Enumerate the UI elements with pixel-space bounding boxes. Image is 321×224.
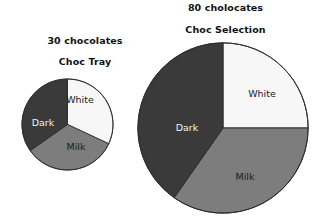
pie-chart-figure: 30 chocolates Choc Tray White Milk Dark … (0, 0, 321, 224)
right-chart-count-title: 80 cholocates (148, 2, 303, 13)
choc-selection-slice-label-white: White (248, 88, 276, 99)
choc-tray-slice-label-white: White (66, 94, 94, 105)
choc-selection-pie-svg (137, 42, 309, 214)
choc-tray-slice-label-dark: Dark (32, 117, 55, 128)
right-chart-name-title: Choc Selection (148, 24, 303, 35)
choc-tray-slice-label-milk: Milk (67, 141, 86, 152)
slice-white[interactable] (223, 43, 308, 128)
choc-selection-slice-label-milk: Milk (236, 171, 255, 182)
choc-selection-pie (137, 42, 309, 214)
choc-selection-slice-label-dark: Dark (176, 122, 199, 133)
